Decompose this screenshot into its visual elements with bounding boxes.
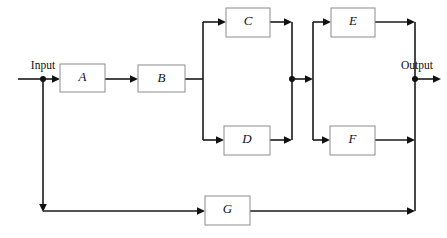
diagram-svg: A B C D E F G Input Output bbox=[0, 0, 447, 238]
arrowhead-into-split-ef bbox=[305, 75, 313, 83]
block-b-label: B bbox=[158, 70, 166, 85]
output-label: Output bbox=[401, 59, 434, 72]
junction-dot-input bbox=[40, 76, 46, 82]
arrowhead-output bbox=[433, 75, 441, 83]
junction-dot-output bbox=[412, 76, 418, 82]
arrowhead-into-a bbox=[52, 75, 60, 83]
arrowhead-into-c bbox=[218, 18, 226, 26]
input-label: Input bbox=[31, 59, 56, 72]
arrowhead-into-f bbox=[322, 136, 330, 144]
arrowhead-into-d bbox=[216, 136, 224, 144]
arrowhead-into-g bbox=[197, 207, 205, 215]
arrowhead-c-merge bbox=[284, 18, 292, 26]
arrowhead-g-to-output-bus bbox=[407, 207, 415, 215]
block-c-label: C bbox=[244, 13, 253, 28]
arrowhead-e-merge bbox=[407, 18, 415, 26]
arrowhead-into-b bbox=[130, 75, 138, 83]
junction-dot-middle bbox=[289, 76, 295, 82]
block-d-label: D bbox=[241, 131, 252, 146]
arrowhead-d-merge bbox=[284, 136, 292, 144]
block-e-label: E bbox=[348, 13, 357, 28]
block-g-label: G bbox=[223, 201, 233, 216]
arrowhead-f-merge bbox=[407, 136, 415, 144]
arrowhead-into-e bbox=[323, 18, 331, 26]
block-diagram-canvas: A B C D E F G Input Output bbox=[0, 0, 447, 238]
block-a-label: A bbox=[78, 69, 87, 84]
block-f-label: F bbox=[348, 131, 358, 146]
